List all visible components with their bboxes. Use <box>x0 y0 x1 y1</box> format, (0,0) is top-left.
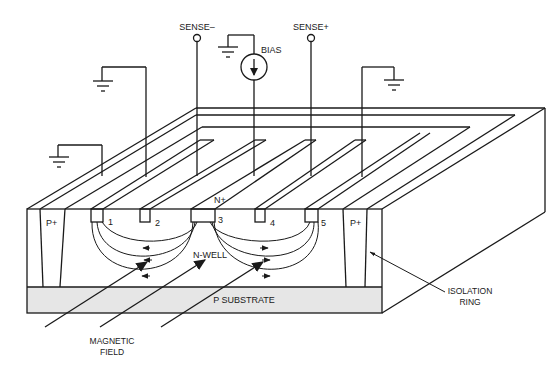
isolation-ring-pointer <box>370 252 445 292</box>
p-plus-left-label: P+ <box>46 218 57 228</box>
magnetic-field-label-line1: MAGNETIC <box>90 336 135 346</box>
ground-icon <box>218 47 238 57</box>
isolation-ring-label-line1: ISOLATION <box>448 286 493 296</box>
hall-sensor-diagram: SENSE– SENSE+ BIAS N+ N-WELL P+ P+ P SUB… <box>0 0 560 374</box>
p-plus-right-label: P+ <box>350 218 361 228</box>
contact-5 <box>305 209 318 222</box>
ground-icon <box>49 157 69 167</box>
magnetic-field-label-line2: FIELD <box>100 347 124 357</box>
n-well-label: N-WELL <box>193 250 227 260</box>
ground-icon <box>93 81 113 91</box>
sense-minus-terminal <box>194 35 201 42</box>
right-side-face <box>382 108 545 313</box>
contact-label-5: 5 <box>321 218 326 228</box>
sense-minus-label: SENSE– <box>179 22 215 32</box>
contact-label-2: 2 <box>155 218 160 228</box>
contacts <box>91 209 318 222</box>
isolation-ring-label-line2: RING <box>459 297 480 307</box>
bias-label: BIAS <box>261 45 282 55</box>
sense-plus-terminal <box>308 35 315 42</box>
contact-label-3: 3 <box>218 215 223 225</box>
p-substrate-label: P SUBSTRATE <box>213 295 275 305</box>
contact-3 <box>191 209 215 222</box>
current-flow-lines <box>92 222 318 276</box>
sense-plus-label: SENSE+ <box>293 22 329 32</box>
top-face <box>27 108 545 209</box>
contact-2 <box>140 209 150 222</box>
contact-1 <box>91 209 103 222</box>
ground-icon <box>384 80 404 90</box>
contact-label-1: 1 <box>108 217 113 227</box>
n-plus-label: N+ <box>214 195 226 205</box>
contact-4 <box>255 209 265 222</box>
contact-label-4: 4 <box>270 218 275 228</box>
current-arrow-icon <box>250 68 258 76</box>
